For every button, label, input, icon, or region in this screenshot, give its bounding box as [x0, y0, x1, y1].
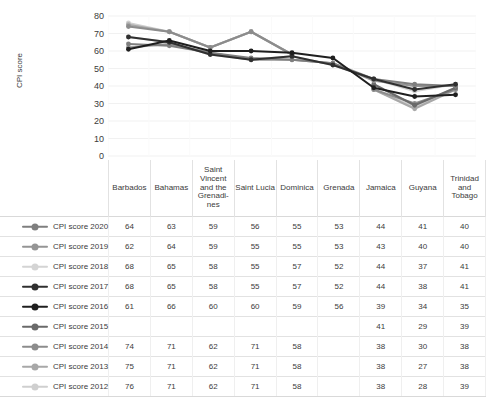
y-tick-label: 60 [94, 47, 104, 56]
table-cell: 35 [444, 297, 486, 317]
legend-cell: CPI score 2015 [0, 317, 109, 337]
legend-label: CPI score 2020 [53, 222, 108, 231]
table-cell: 28 [402, 377, 444, 397]
table-cell: 71 [150, 377, 192, 397]
column-header: Jamaica [360, 160, 402, 217]
legend-marker-icon [22, 322, 48, 331]
table-cell: 60 [234, 297, 276, 317]
table-cell [276, 317, 318, 337]
legend-cell: CPI score 2018 [0, 257, 109, 277]
table-cell: 58 [276, 377, 318, 397]
column-header: Saint Lucia [234, 160, 276, 217]
table-header-row: BarbadosBahamasSaint Vincent and the Gre… [0, 160, 486, 217]
legend-label: CPI score 2012 [53, 382, 108, 391]
table-header: BarbadosBahamasSaint Vincent and the Gre… [0, 160, 486, 217]
column-header: Guyana [402, 160, 444, 217]
legend-label: CPI score 2016 [53, 302, 108, 311]
table-cell: 52 [318, 277, 360, 297]
table-cell: 62 [192, 357, 234, 377]
table-cell: 62 [192, 337, 234, 357]
table-cell [318, 357, 360, 377]
table-cell: 58 [276, 357, 318, 377]
table-cell: 59 [192, 237, 234, 257]
legend-label: CPI score 2018 [53, 262, 108, 271]
table-cell: 75 [109, 357, 151, 377]
table-cell: 57 [276, 277, 318, 297]
data-table: BarbadosBahamasSaint Vincent and the Gre… [0, 160, 486, 397]
data-point [330, 63, 335, 68]
data-point [208, 49, 213, 54]
table-cell [109, 317, 151, 337]
table-cell: 40 [444, 217, 486, 237]
table-cell: 52 [318, 257, 360, 277]
series-line [128, 37, 455, 90]
table-cell: 71 [234, 357, 276, 377]
series-cpi-score-2013 [126, 22, 458, 111]
column-header: Trinidad and Tobago [444, 160, 486, 217]
table-cell: 68 [109, 257, 151, 277]
data-point [290, 50, 295, 55]
table-cell: 68 [109, 277, 151, 297]
legend-cell: CPI score 2016 [0, 297, 109, 317]
table-cell: 59 [192, 217, 234, 237]
table-cell: 55 [234, 277, 276, 297]
chart-svg [108, 10, 476, 160]
table-cell: 59 [276, 297, 318, 317]
table-cell [234, 317, 276, 337]
data-point [249, 29, 254, 34]
table-cell: 27 [402, 357, 444, 377]
table-row: CPI score 2018686558555752443741 [0, 257, 486, 277]
table-cell: 38 [402, 277, 444, 297]
table-cell: 41 [444, 277, 486, 297]
data-point [126, 35, 131, 40]
y-tick-label: 10 [94, 134, 104, 143]
data-point [453, 82, 458, 87]
table-cell: 71 [150, 337, 192, 357]
data-point [126, 47, 131, 52]
legend-marker-icon [22, 222, 48, 231]
table-cell [192, 317, 234, 337]
table-cell: 62 [192, 377, 234, 397]
table-cell: 38 [444, 337, 486, 357]
table-cell: 38 [360, 337, 402, 357]
table-cell: 41 [402, 217, 444, 237]
data-point [412, 94, 417, 99]
legend-cell: CPI score 2014 [0, 337, 109, 357]
series-cpi-score-2020 [126, 42, 458, 89]
data-point [371, 77, 376, 82]
table-cell: 37 [402, 257, 444, 277]
table-cell: 41 [360, 317, 402, 337]
table-cell: 38 [444, 357, 486, 377]
line-chart: CPI score 80706050403020100 [0, 10, 484, 160]
data-point [453, 92, 458, 97]
legend-marker-icon [22, 282, 48, 291]
table-cell: 71 [234, 377, 276, 397]
data-point [412, 82, 417, 87]
table-row: CPI score 2015412939 [0, 317, 486, 337]
column-header: Bahamas [150, 160, 192, 217]
table-cell: 71 [234, 337, 276, 357]
table-cell: 58 [192, 277, 234, 297]
table-cell: 38 [360, 377, 402, 397]
legend-marker-icon [22, 262, 48, 271]
y-tick-label: 20 [94, 117, 104, 126]
y-axis-ticks: 80706050403020100 [72, 10, 104, 160]
data-point [412, 103, 417, 108]
column-header: Barbados [109, 160, 151, 217]
table-cell: 41 [444, 257, 486, 277]
table-row: CPI score 20127671627158382839 [0, 377, 486, 397]
table-cell: 53 [318, 217, 360, 237]
data-point [371, 85, 376, 90]
table-cell: 38 [360, 357, 402, 377]
data-point [167, 29, 172, 34]
data-point [249, 57, 254, 62]
table-row: CPI score 2019626459555553434040 [0, 237, 486, 257]
table-cell: 44 [360, 257, 402, 277]
table-cell: 39 [360, 297, 402, 317]
series-line [128, 44, 455, 86]
column-header: Grenada [318, 160, 360, 217]
table-cell: 40 [444, 237, 486, 257]
table-cell: 39 [444, 377, 486, 397]
table-row: CPI score 20147471627158383038 [0, 337, 486, 357]
